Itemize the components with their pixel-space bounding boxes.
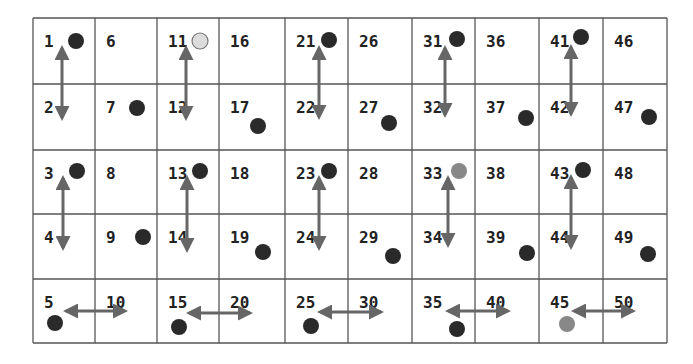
cell-label: 50 [614,293,633,312]
cell-label: 20 [230,293,249,312]
cell-label: 25 [296,293,315,312]
cell-label: 34 [423,228,442,247]
cell-label: 29 [359,228,378,247]
cell-label: 38 [486,164,505,183]
cell-label: 26 [359,32,378,51]
cell-label: 22 [296,98,315,117]
cell-label: 12 [168,98,187,117]
dark-dot-marker [449,31,465,47]
cell-label: 18 [230,164,249,183]
dark-dot-marker [303,318,319,334]
cell-label: 14 [168,228,187,247]
grid-diagram: 1234567891011121314151617181920212223242… [0,0,693,364]
cell-label: 45 [550,293,569,312]
gray-dot-marker [559,316,575,332]
cell-label: 40 [486,293,505,312]
cell-label: 44 [550,228,569,247]
dark-dot-marker [47,315,63,331]
cell-label: 16 [230,32,249,51]
dark-dot-marker [449,321,465,337]
dark-dot-marker [171,319,187,335]
cell-label: 3 [44,164,54,183]
dark-dot-marker [575,162,591,178]
dark-dot-marker [641,109,657,125]
dark-dot-marker [129,100,145,116]
dark-dot-marker [640,246,656,262]
cell-label: 39 [486,228,505,247]
dark-dot-marker [519,245,535,261]
cell-label: 30 [359,293,378,312]
cell-label: 2 [44,98,54,117]
cell-label: 10 [106,293,125,312]
cell-label: 47 [614,98,633,117]
cell-label: 27 [359,98,378,117]
cell-label: 32 [423,98,442,117]
cell-label: 4 [44,228,54,247]
dark-dot-marker [68,33,84,49]
dark-dot-marker [321,32,337,48]
cell-label: 31 [423,32,442,51]
dark-dot-marker [69,163,85,179]
cell-label: 49 [614,228,633,247]
dark-dot-marker [250,118,266,134]
cell-label: 8 [106,164,116,183]
cell-label: 19 [230,228,249,247]
cell-label: 15 [168,293,187,312]
cell-label: 33 [423,164,442,183]
cell-label: 5 [44,293,54,312]
cell-label: 23 [296,164,315,183]
dark-dot-marker [573,29,589,45]
dark-dot-marker [135,229,151,245]
light-dot-marker [192,33,208,49]
dark-dot-marker [381,115,397,131]
cell-labels: 1234567891011121314151617181920212223242… [44,32,633,312]
dots [47,29,657,337]
dark-dot-marker [192,163,208,179]
cell-label: 42 [550,98,569,117]
cell-label: 37 [486,98,505,117]
cell-label: 9 [106,228,116,247]
cell-label: 11 [168,32,187,51]
cell-label: 17 [230,98,249,117]
dark-dot-marker [385,248,401,264]
cell-label: 1 [44,32,54,51]
cell-label: 21 [296,32,315,51]
cell-label: 24 [296,228,315,247]
dark-dot-marker [518,110,534,126]
cell-label: 46 [614,32,633,51]
cell-label: 28 [359,164,378,183]
cell-label: 48 [614,164,633,183]
cell-label: 41 [550,32,569,51]
cell-label: 6 [106,32,116,51]
cell-label: 13 [168,164,187,183]
cell-label: 36 [486,32,505,51]
cell-label: 7 [106,98,116,117]
gray-dot-marker [451,163,467,179]
dark-dot-marker [321,163,337,179]
dark-dot-marker [255,244,271,260]
cell-label: 35 [423,293,442,312]
cell-label: 43 [550,164,569,183]
